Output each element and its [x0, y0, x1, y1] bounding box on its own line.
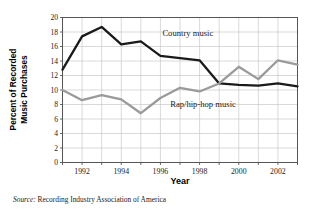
y-tick-label: 0: [54, 158, 58, 167]
x-axis-tick-labels: 199219941996199820002002: [74, 167, 286, 176]
source-label: Source:: [13, 195, 36, 204]
x-tick-label: 2002: [270, 167, 286, 176]
series-annotation-label: Country music: [162, 28, 213, 38]
x-tick-label: 1994: [113, 167, 129, 176]
x-tick-label: 1998: [192, 167, 208, 176]
y-tick-label: 8: [54, 100, 58, 109]
gridlines: [63, 18, 298, 163]
source-text: Recording Industry Association of Americ…: [38, 195, 167, 204]
y-axis-title: Percent of Recorded Music Purchases: [4, 16, 34, 162]
series-annotation-label: Rap/hip-hop music: [170, 99, 236, 109]
source-note: Source: Recording Industry Association o…: [13, 195, 166, 204]
y-axis-title-text: Percent of Recorded Music Purchases: [9, 48, 30, 130]
y-tick-label: 6: [54, 115, 58, 124]
chart-figure: 02468101214161820 1992199419961998200020…: [0, 0, 309, 211]
x-tick-label: 2000: [231, 167, 247, 176]
y-tick-label: 18: [50, 28, 58, 37]
y-axis-title-line-1: Percent of Recorded: [9, 48, 19, 130]
x-tick-label: 1992: [74, 167, 90, 176]
y-axis-tick-labels: 02468101214161820: [50, 13, 58, 167]
x-axis-title: Year: [62, 176, 298, 186]
y-axis-title-line-2: Music Purchases: [19, 55, 29, 123]
y-tick-label: 10: [50, 86, 58, 95]
y-tick-label: 14: [50, 57, 58, 66]
y-tick-label: 20: [50, 13, 58, 22]
y-tick-label: 4: [54, 129, 58, 138]
y-tick-label: 12: [50, 71, 58, 80]
x-tick-label: 1996: [153, 167, 169, 176]
y-tick-label: 16: [50, 42, 58, 51]
y-tick-label: 2: [54, 144, 58, 153]
series-annotations: Country musicRap/hip-hop music: [162, 28, 236, 109]
